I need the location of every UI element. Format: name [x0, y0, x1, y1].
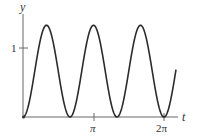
curve-line [23, 25, 176, 117]
chart: 1 π 2π y t [0, 0, 198, 139]
x-tick-label-2pi: 2π [156, 122, 168, 134]
x-axis-label: t [182, 110, 186, 124]
y-axis-label: y [19, 0, 26, 14]
y-tick-label-1: 1 [11, 42, 17, 54]
x-tick-label-pi: π [90, 122, 96, 134]
